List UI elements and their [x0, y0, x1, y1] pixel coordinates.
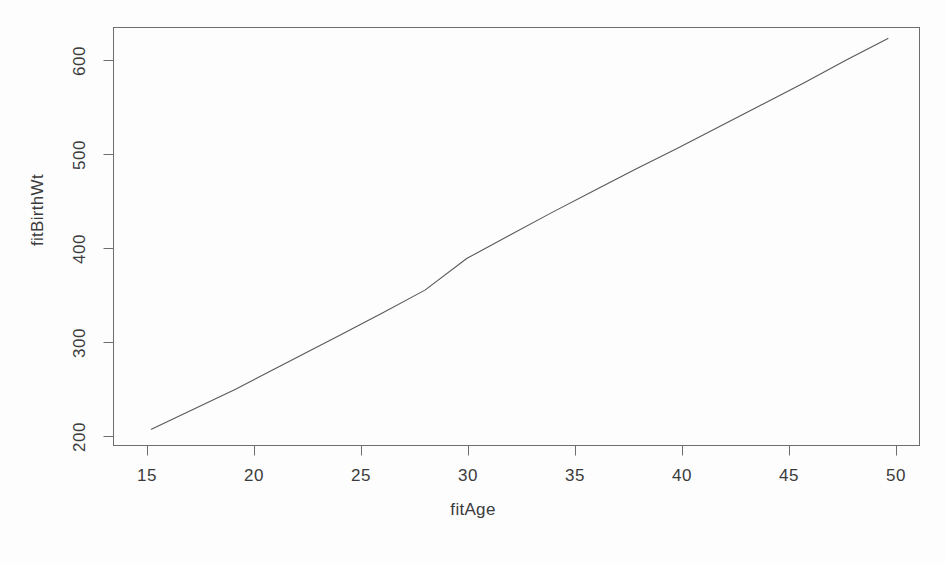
plot-area: 15 20 25 30 35 40 45 50 200 300 400 500 …: [0, 0, 946, 563]
y-axis-ticks: [104, 61, 114, 437]
data-series-line: [151, 38, 888, 429]
y-tick-label-1: 300: [70, 313, 90, 373]
y-tick-label-4: 600: [70, 31, 90, 91]
x-tick-label-6: 45: [759, 466, 819, 486]
y-axis-title: fitBirthWt: [28, 186, 48, 246]
y-tick-label-0: 200: [70, 407, 90, 467]
x-tick-label-7: 50: [866, 466, 926, 486]
x-tick-label-1: 20: [224, 466, 284, 486]
x-axis-ticks: [148, 446, 897, 456]
plot-box-border: [114, 28, 920, 446]
x-tick-label-2: 25: [331, 466, 391, 486]
y-tick-label-2: 400: [70, 219, 90, 279]
chart-screenshot: 15 20 25 30 35 40 45 50 200 300 400 500 …: [0, 0, 946, 563]
x-tick-label-5: 40: [652, 466, 712, 486]
x-tick-label-4: 35: [545, 466, 605, 486]
x-axis-title: fitAge: [0, 500, 946, 520]
y-tick-label-3: 500: [70, 125, 90, 185]
x-tick-label-0: 15: [117, 466, 177, 486]
x-tick-label-3: 30: [438, 466, 498, 486]
